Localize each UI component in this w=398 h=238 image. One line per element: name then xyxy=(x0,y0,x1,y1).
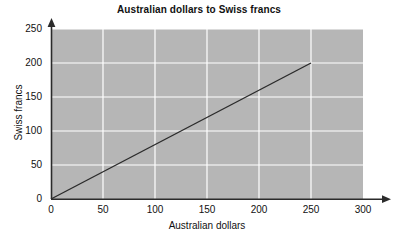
x-tick-label: 300 xyxy=(343,205,383,215)
y-tick-label: 250 xyxy=(14,24,42,34)
x-axis-arrowhead xyxy=(382,195,391,203)
y-tick-label: 0 xyxy=(14,194,42,204)
x-tick-label: 100 xyxy=(135,205,175,215)
x-tick-label: 0 xyxy=(31,205,71,215)
plot-area xyxy=(51,29,363,199)
x-tick-label: 250 xyxy=(291,205,331,215)
currency-conversion-chart: Australian dollars to Swiss francs 05010… xyxy=(0,0,398,238)
x-tick-label: 150 xyxy=(187,205,227,215)
chart-title: Australian dollars to Swiss francs xyxy=(0,4,398,15)
x-axis-title: Australian dollars xyxy=(51,220,363,231)
y-axis-arrowhead xyxy=(48,18,56,27)
x-tick-label: 200 xyxy=(239,205,279,215)
y-axis-title: Swiss francs xyxy=(13,53,24,173)
x-tick-label: 50 xyxy=(83,205,123,215)
